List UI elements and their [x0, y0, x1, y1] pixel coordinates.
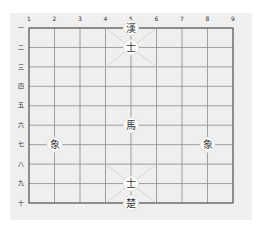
- row-label: 九: [18, 179, 24, 187]
- row-labels: 一二三四五六七八九十: [18, 24, 24, 207]
- row-label: 七: [18, 140, 24, 147]
- row-label: 三: [18, 63, 24, 70]
- column-label: 7: [180, 15, 184, 22]
- row-label: 五: [18, 101, 24, 108]
- column-label: 8: [206, 15, 210, 22]
- piece-label: 象: [203, 139, 213, 150]
- row-label: 一: [18, 24, 24, 31]
- column-label: 1: [27, 15, 31, 22]
- piece-horse[interactable]: 馬: [124, 118, 139, 133]
- piece-elephant-left[interactable]: 象: [47, 137, 62, 152]
- piece-label: 象: [50, 139, 60, 150]
- piece-elephant-right[interactable]: 象: [200, 137, 215, 152]
- column-label: 9: [231, 15, 235, 22]
- row-label: 六: [18, 121, 24, 129]
- piece-label: 士: [126, 41, 136, 53]
- row-label: 四: [18, 82, 24, 89]
- piece-label: 漢: [126, 22, 136, 34]
- column-label: 2: [53, 15, 57, 22]
- row-label: 十: [18, 199, 24, 207]
- piece-han-general[interactable]: 漢: [124, 21, 139, 36]
- column-label: 6: [155, 15, 159, 22]
- piece-label: 士: [126, 177, 136, 189]
- xiangqi-board[interactable]: 123456789 一二三四五六七八九十 漢士馬象象士楚: [0, 0, 258, 232]
- piece-label: 楚: [126, 197, 136, 209]
- piece-advisor-bottom[interactable]: 士: [124, 176, 139, 191]
- row-label: 八: [18, 160, 24, 167]
- piece-chu-general[interactable]: 楚: [124, 196, 139, 211]
- column-label: 3: [78, 15, 82, 22]
- piece-label: 馬: [126, 120, 136, 131]
- row-label: 二: [18, 43, 24, 50]
- piece-advisor-top[interactable]: 士: [124, 40, 139, 55]
- column-label: 4: [104, 15, 108, 22]
